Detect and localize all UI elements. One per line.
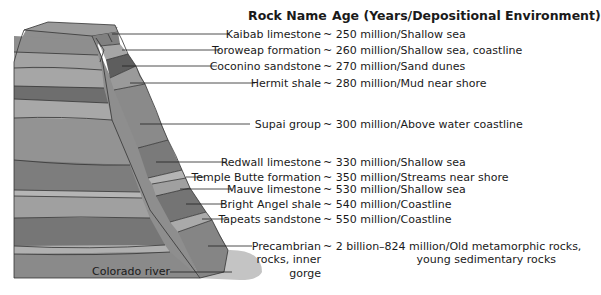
header-age: Age (Years/Depositional Environment) [332, 8, 601, 23]
age-label-redwall: ~ 330 million/Shallow sea [323, 156, 466, 169]
rock-label-tapeats: Tapeats sandstone [218, 213, 321, 226]
age-label-precambrian-line2: young sedimentary rocks [417, 253, 556, 266]
rock-label-supai: Supai group [255, 118, 321, 131]
rock-label-coconino: Coconino sandstone [210, 60, 321, 73]
age-label-precambrian: ~ 2 billion–824 million/Old metamorphic … [323, 240, 581, 253]
age-label-toroweap: ~ 260 million/Shallow sea, coastline [323, 44, 522, 57]
colorado-river-label: Colorado river [92, 265, 170, 278]
age-label-mauve: ~ 530 million/Shallow sea [323, 183, 466, 196]
rock-label-kaibab: Kaibab limestone [226, 28, 321, 41]
rock-label-precambrian: Precambrian [252, 240, 321, 253]
age-label-coconino: ~ 270 million/Sand dunes [323, 60, 465, 73]
age-label-supai: ~ 300 million/Above water coastline [323, 118, 523, 131]
header-rock-name: Rock Name [248, 8, 327, 23]
rock-label-redwall: Redwall limestone [221, 156, 321, 169]
rock-label-toroweap: Toroweap formation [212, 44, 321, 57]
age-label-bright-angel: ~ 540 million/Coastline [323, 198, 452, 211]
age-label-kaibab: ~ 250 million/Shallow sea [323, 28, 466, 41]
rock-label-hermit: Hermit shale [251, 77, 321, 90]
age-label-tapeats: ~ 550 million/Coastline [323, 213, 452, 226]
rock-label-precambrian-line3: gorge [289, 267, 321, 280]
age-label-hermit: ~ 280 million/Mud near shore [323, 77, 486, 90]
rock-label-mauve: Mauve limestone [227, 183, 321, 196]
rock-label-bright-angel: Bright Angel shale [220, 198, 321, 211]
rock-label-precambrian-line2: rocks, inner [257, 253, 321, 266]
